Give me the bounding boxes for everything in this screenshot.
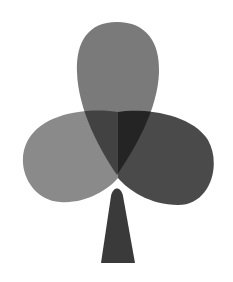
stem	[101, 189, 135, 264]
club-symbol	[0, 0, 233, 282]
